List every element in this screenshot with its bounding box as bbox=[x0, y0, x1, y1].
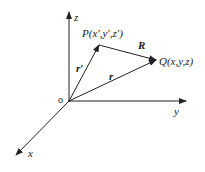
origin-point bbox=[68, 100, 70, 102]
vector-r-prime-label: r′ bbox=[76, 63, 83, 74]
x-axis-label: x bbox=[28, 148, 33, 159]
vector-R bbox=[99, 45, 156, 60]
point-q-label: Q(x,y,z) bbox=[159, 56, 193, 67]
vector-R-label: R bbox=[138, 40, 145, 51]
coordinate-diagram: z y x o P(x′,y′,z′) Q(x,y,z) r′ r R bbox=[0, 0, 205, 172]
point-p-label: P(x′,y′,z′) bbox=[82, 28, 123, 39]
z-axis-label: z bbox=[74, 12, 78, 23]
vector-r-label: r bbox=[109, 71, 113, 82]
y-axis-label: y bbox=[174, 106, 179, 117]
origin-label: o bbox=[58, 95, 63, 105]
x-axis bbox=[16, 101, 69, 155]
vector-r-prime bbox=[69, 45, 99, 101]
